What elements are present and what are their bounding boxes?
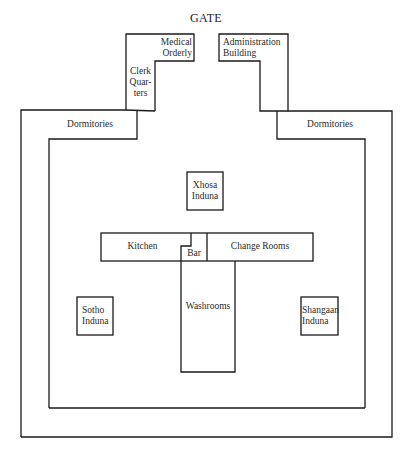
label-line: Sotho — [82, 305, 108, 316]
gate-label: GATE — [180, 13, 232, 24]
clerk-quarters-label: Clerk Quar- ters — [127, 66, 154, 99]
change-rooms-label: Change Rooms — [207, 241, 313, 252]
label-line: Quar- — [127, 77, 154, 88]
label-line: ters — [127, 88, 154, 99]
label-line: Induna — [187, 191, 223, 202]
label-line: Orderly — [150, 48, 192, 59]
medical-orderly-label: Medical Orderly — [150, 37, 192, 59]
shangaan-induna-label: Shangaan Induna — [302, 305, 339, 327]
sotho-induna-label: Sotho Induna — [82, 305, 108, 327]
label-line: Shangaan — [302, 305, 339, 316]
washrooms-room — [181, 261, 235, 372]
washrooms-label: Washrooms — [181, 301, 235, 312]
left-tower-base — [126, 110, 155, 111]
label-line: Induna — [82, 316, 108, 327]
compound-floor-plan — [0, 0, 409, 449]
bar-label: Bar — [182, 248, 206, 259]
xhosa-induna-label: Xhosa Induna — [187, 180, 223, 202]
dormitories-left-label: Dormitories — [50, 119, 130, 130]
dormitories-right-label: Dormitories — [290, 119, 370, 130]
label-line: Xhosa — [187, 180, 223, 191]
administration-building-label: Administration Building — [223, 37, 281, 59]
label-line: Administration — [223, 37, 281, 48]
label-line: Building — [223, 48, 281, 59]
label-line: Medical — [150, 37, 192, 48]
left-dormitory-wall — [49, 111, 137, 408]
right-dormitory-wall — [277, 111, 365, 408]
label-line: Clerk — [127, 66, 154, 77]
kitchen-label: Kitchen — [110, 241, 175, 252]
label-line: Induna — [302, 316, 339, 327]
